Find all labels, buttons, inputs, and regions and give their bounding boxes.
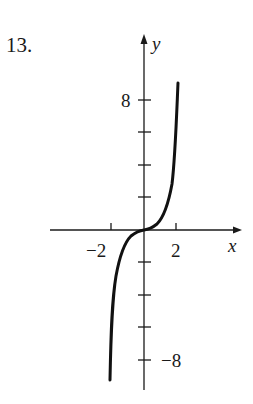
x-axis-arrow-icon: [233, 227, 242, 234]
cubic-graph: y x −2 2 8 −8: [0, 0, 253, 404]
y-tick-label-neg8: −8: [161, 350, 181, 371]
y-tick-label-8: 8: [121, 90, 131, 111]
y-axis-label: y: [150, 33, 161, 54]
x-tick-label-neg2: −2: [86, 240, 106, 261]
x-tick-label-2: 2: [171, 240, 181, 261]
y-axis-arrow-icon: [141, 34, 148, 44]
x-axis-label: x: [227, 235, 237, 256]
